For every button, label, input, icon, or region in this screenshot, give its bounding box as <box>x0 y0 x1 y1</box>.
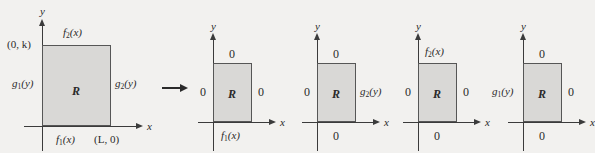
x-axis-label: x <box>485 117 490 128</box>
panel-subproblem-1: y x R 0 f1(x) 0 0 <box>196 0 296 153</box>
y-axis-arrowhead-icon <box>415 33 421 40</box>
x-axis-arrowhead-icon <box>579 119 586 125</box>
right-boundary-label: 0 <box>463 86 469 98</box>
y-axis-arrowhead-icon <box>39 19 45 26</box>
corner-point-bottom-right: (L, 0) <box>94 134 119 145</box>
x-axis <box>403 122 475 123</box>
bottom-boundary-label: 0 <box>333 130 339 142</box>
left-boundary-label: g1(y) <box>12 78 33 90</box>
region-label: R <box>433 88 441 100</box>
bottom-boundary-label: f1(x) <box>56 134 75 146</box>
region-label: R <box>72 85 80 97</box>
transition-arrow-head-icon <box>180 84 188 92</box>
x-axis-arrowhead-icon <box>474 119 481 125</box>
left-boundary-label: g1(y) <box>492 86 513 98</box>
y-axis-label: y <box>521 21 526 32</box>
x-axis-arrowhead-icon <box>269 119 276 125</box>
x-axis-arrowhead-icon <box>136 123 143 129</box>
top-boundary-label: 0 <box>333 48 339 60</box>
panel-subproblem-4: y x R 0 0 g1(y) 0 <box>506 0 594 153</box>
y-axis-label: y <box>211 21 216 32</box>
panel-original-problem: y x R f2(x) f1(x) g1(y) g2(y) (0, k) (L,… <box>0 0 160 153</box>
x-axis <box>508 122 580 123</box>
y-axis-label: y <box>315 21 320 32</box>
left-boundary-label: 0 <box>304 86 310 98</box>
y-axis-label: y <box>416 21 421 32</box>
right-boundary-label: 0 <box>568 86 574 98</box>
top-boundary-label: 0 <box>229 48 235 60</box>
region-label: R <box>538 88 546 100</box>
transition-arrow-shaft <box>162 87 181 89</box>
bottom-boundary-label: 0 <box>539 130 545 142</box>
corner-point-top-left: (0, k) <box>7 39 31 50</box>
top-boundary-label: f2(x) <box>63 27 82 39</box>
top-boundary-label: 0 <box>539 48 545 60</box>
x-axis-label: x <box>280 117 285 128</box>
top-boundary-label: f2(x) <box>425 46 444 58</box>
right-boundary-label: g2(y) <box>115 78 136 90</box>
y-axis-arrowhead-icon <box>314 33 320 40</box>
x-axis <box>198 122 270 123</box>
x-axis <box>302 122 374 123</box>
region-label: R <box>332 88 340 100</box>
bottom-boundary-label: f1(x) <box>221 130 240 142</box>
x-axis-label: x <box>384 117 389 128</box>
region-label: R <box>228 88 236 100</box>
x-axis-arrowhead-icon <box>373 119 380 125</box>
right-boundary-label: 0 <box>258 86 264 98</box>
y-axis-arrowhead-icon <box>210 33 216 40</box>
panel-subproblem-2: y x R 0 0 0 g2(y) <box>300 0 400 153</box>
right-boundary-label: g2(y) <box>360 86 381 98</box>
x-axis <box>24 126 137 127</box>
x-axis-label: x <box>147 121 152 132</box>
left-boundary-label: 0 <box>200 86 206 98</box>
y-axis-arrowhead-icon <box>520 33 526 40</box>
bottom-boundary-label: 0 <box>434 130 440 142</box>
x-axis-label: x <box>590 117 595 128</box>
left-boundary-label: 0 <box>405 86 411 98</box>
panel-subproblem-3: y x R f2(x) 0 0 0 <box>401 0 501 153</box>
y-axis-label: y <box>40 6 45 17</box>
